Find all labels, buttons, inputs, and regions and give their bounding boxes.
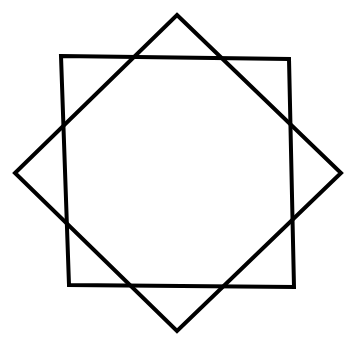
star-figure xyxy=(0,0,352,347)
figure-background xyxy=(0,0,352,347)
